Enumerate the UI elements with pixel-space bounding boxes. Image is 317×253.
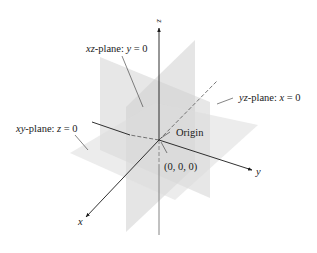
xy-plane <box>70 103 258 200</box>
yz-plane-leader <box>217 98 233 104</box>
y-axis-label: y <box>255 166 261 177</box>
origin-coordinates: (0, 0, 0) <box>164 161 198 173</box>
xz-plane-label: xz-plane: y = 0 <box>85 43 148 54</box>
xy-plane-label: xy-plane: z = 0 <box>15 123 78 134</box>
origin-label: Origin <box>176 127 204 138</box>
yz-plane-label: yz-plane: x = 0 <box>238 92 301 103</box>
z-axis-label: z <box>155 18 165 23</box>
coordinate-planes-diagram: z y x xz-plane: y = 0 yz-plane: x = 0 xy… <box>0 0 317 253</box>
x-axis-label: x <box>77 216 83 227</box>
